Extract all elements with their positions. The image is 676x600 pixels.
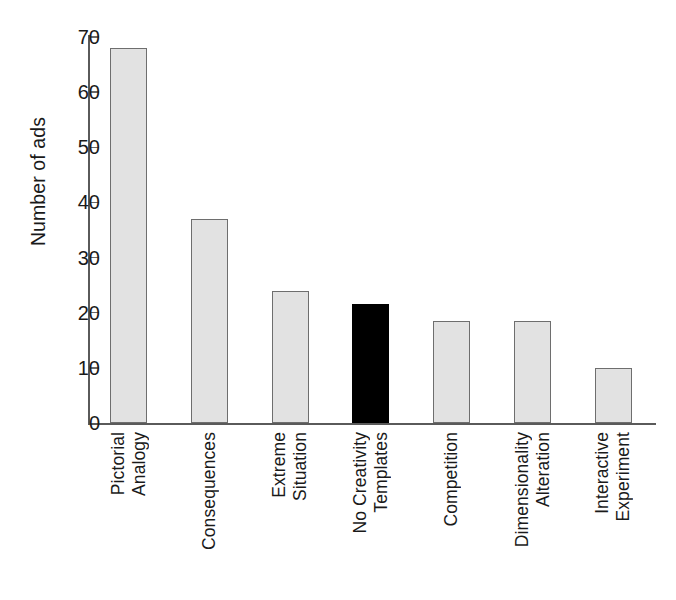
y-tick-label: 40: [22, 192, 100, 212]
bar-consequences: [191, 219, 228, 423]
y-tick-label: 10: [22, 358, 100, 378]
y-tick-label: 70: [22, 27, 100, 47]
x-axis-label-line: Interactive: [592, 432, 613, 514]
bar-pictorial-analogy: [110, 48, 147, 423]
x-axis-label: Consequences: [199, 432, 220, 452]
x-axis-label: No CreativityTemplates: [350, 432, 392, 452]
x-axis-label: PictorialAnalogy: [108, 432, 150, 452]
x-axis-label: ExtremeSituation: [269, 432, 311, 452]
x-axis-label-line: Alteration: [533, 432, 554, 507]
bar-dimensionality-alteration: [514, 321, 551, 423]
bar-extreme-situation: [272, 291, 309, 423]
y-tick-label: 20: [22, 303, 100, 323]
bar-interactive-experiment: [595, 368, 632, 423]
x-axis-label-line: Extreme: [269, 432, 290, 498]
x-axis-label-line: No Creativity: [350, 432, 371, 533]
y-tick-label: 0: [22, 413, 100, 433]
x-axis-label-line: Dimensionality: [512, 432, 533, 547]
x-axis-label-line: Pictorial: [108, 432, 129, 495]
bar-chart: Number of ads 010203040506070 PictorialA…: [0, 0, 676, 600]
x-axis-label: InteractiveExperiment: [592, 432, 634, 452]
x-axis-label-line: Competition: [441, 432, 462, 526]
bar-no-creativity-templates: [352, 304, 389, 423]
x-axis-label-line: Experiment: [613, 432, 634, 522]
x-axis-label: DimensionalityAlteration: [512, 432, 554, 452]
x-axis-label-line: Templates: [371, 432, 392, 513]
x-axis-label-line: Situation: [290, 432, 311, 501]
x-axis-label: Competition: [441, 432, 462, 452]
y-tick-label: 50: [22, 137, 100, 157]
x-axis-label-line: Consequences: [199, 432, 220, 550]
bar-competition: [433, 321, 470, 423]
y-tick-label: 60: [22, 82, 100, 102]
x-axis-label-line: Analogy: [129, 432, 150, 496]
y-tick-label: 30: [22, 248, 100, 268]
x-axis-line: [88, 423, 656, 425]
